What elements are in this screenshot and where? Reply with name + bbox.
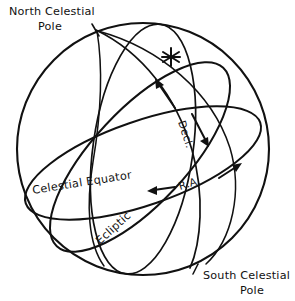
- right-ascension-label: R.A.: [177, 174, 202, 192]
- south-celestial-pole-label-line2: Pole: [240, 284, 264, 297]
- north-celestial-pole-label-line1: North Celestial: [9, 5, 95, 18]
- south-celestial-pole-label-line1: South Celestial: [203, 269, 290, 282]
- declination-arrow-upper: [155, 78, 175, 108]
- celestial-sphere-diagram: North Celestial Pole South Celestial Pol…: [0, 0, 295, 301]
- north-celestial-pole-label-line2: Pole: [38, 20, 62, 33]
- celestial-sphere-figure: North Celestial Pole South Celestial Pol…: [0, 0, 295, 301]
- star-marker-icon: [162, 48, 180, 66]
- celestial-equator-label: Celestial Equator: [31, 168, 132, 197]
- sphere-outline-circle: [17, 23, 269, 275]
- declination-label: Decl.: [176, 119, 196, 150]
- south-pole-tick: [193, 264, 198, 274]
